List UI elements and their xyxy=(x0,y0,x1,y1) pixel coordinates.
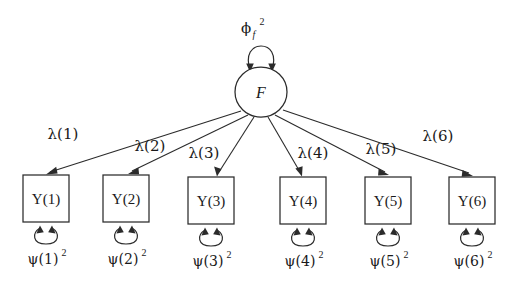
residual-base-5: ψ(5) xyxy=(370,253,401,269)
indicator-label-3: Y(3) xyxy=(197,193,225,210)
variance-superscript: 2 xyxy=(260,16,265,27)
residual-exponent-2: 2 xyxy=(142,247,147,258)
loading-arrowhead-4 xyxy=(295,166,302,176)
residual-base-1: ψ(1) xyxy=(28,251,59,267)
residual-loop-5 xyxy=(377,228,400,247)
variance-subscript: f xyxy=(253,29,257,40)
residual-label-6: ψ(6) 2 xyxy=(454,249,493,269)
loading-label-5: λ(5) xyxy=(366,140,397,158)
residual-label-5: ψ(5) 2 xyxy=(370,249,409,269)
residual-label-4: ψ(4) 2 xyxy=(285,249,324,269)
residual-loop-1 xyxy=(35,226,58,245)
loading-label-6: λ(6) xyxy=(423,127,454,145)
diagram-svg: F xyxy=(0,0,520,288)
residual-exponent-4: 2 xyxy=(319,249,324,260)
indicator-label-5: Y(5) xyxy=(374,193,402,210)
residual-label-2: ψ(2) 2 xyxy=(108,247,147,267)
latent-variance-label: ϕ f 2 xyxy=(241,16,265,40)
residual-exponent-6: 2 xyxy=(488,249,493,260)
loading-arrowhead-1 xyxy=(46,167,58,175)
indicator-labels: Y(1) Y(2) Y(3) Y(4) Y(5) Y(6) xyxy=(32,191,486,210)
loading-label-4: λ(4) xyxy=(298,144,329,162)
loading-arrowhead-5 xyxy=(378,169,389,176)
residual-base-4: ψ(4) xyxy=(285,253,316,269)
loading-paths xyxy=(46,110,473,177)
indicator-label-2: Y(2) xyxy=(112,191,140,208)
residual-loop-3 xyxy=(200,228,223,247)
residual-base-6: ψ(6) xyxy=(454,253,485,269)
path-diagram-canvas: F xyxy=(0,0,520,288)
loading-path-3 xyxy=(214,117,254,177)
loading-arrowhead-2 xyxy=(128,167,139,174)
residual-loop-4 xyxy=(292,228,315,247)
residual-base-3: ψ(3) xyxy=(193,253,224,269)
residual-label-3: ψ(3) 2 xyxy=(193,249,232,269)
indicator-label-4: Y(4) xyxy=(289,193,317,210)
loading-labels: λ(1) λ(2) λ(3) λ(4) λ(5) λ(6) xyxy=(48,125,454,162)
indicator-label-6: Y(6) xyxy=(458,193,486,210)
loading-arrowhead-3 xyxy=(214,167,221,177)
residual-loop-2 xyxy=(115,226,138,245)
residual-labels: ψ(1) 2 ψ(2) 2 ψ(3) 2 ψ(4) 2 ψ(5) 2 ψ(6) … xyxy=(28,247,493,269)
latent-factor-label: F xyxy=(255,84,266,101)
loading-label-1: λ(1) xyxy=(48,125,79,143)
loading-arrowhead-6 xyxy=(462,170,473,177)
loading-label-3: λ(3) xyxy=(189,144,220,162)
residual-exponent-3: 2 xyxy=(227,249,232,260)
residual-loop-6 xyxy=(461,228,484,247)
variance-symbol: ϕ xyxy=(241,19,251,37)
residual-base-2: ψ(2) xyxy=(108,251,139,267)
residual-label-1: ψ(1) 2 xyxy=(28,247,67,267)
loading-line-3 xyxy=(219,117,254,172)
residual-exponent-5: 2 xyxy=(404,249,409,260)
residual-loops xyxy=(35,226,484,247)
indicator-label-1: Y(1) xyxy=(32,191,60,208)
residual-exponent-1: 2 xyxy=(62,247,67,258)
latent-factor-node: F xyxy=(235,67,287,117)
indicator-boxes xyxy=(23,175,495,224)
loading-label-2: λ(2) xyxy=(135,137,166,155)
